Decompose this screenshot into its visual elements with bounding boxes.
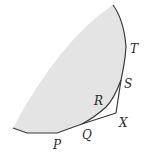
label-x: X bbox=[119, 117, 128, 129]
label-t: T bbox=[130, 43, 138, 55]
label-q: Q bbox=[82, 129, 92, 141]
label-s: S bbox=[124, 78, 132, 90]
label-r: R bbox=[94, 95, 103, 107]
convex-region-diagram: T S R X Q P bbox=[0, 0, 148, 156]
label-p: P bbox=[53, 139, 61, 151]
shaded-region bbox=[13, 5, 126, 133]
